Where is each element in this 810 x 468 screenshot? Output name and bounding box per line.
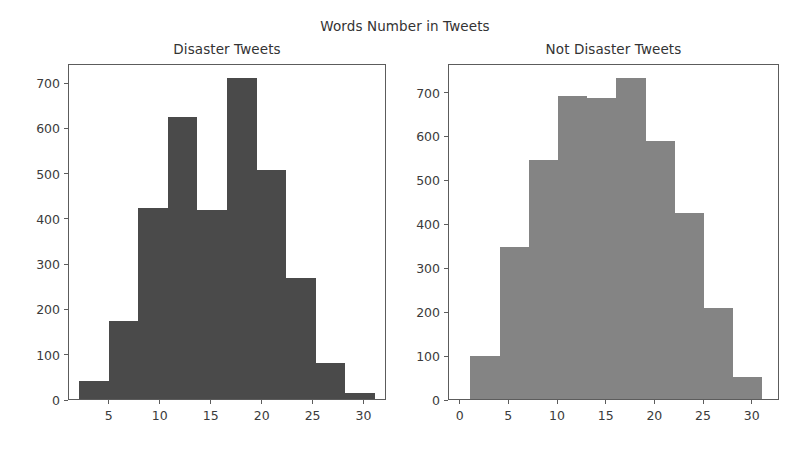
- y-tick-mark: [64, 83, 68, 84]
- histogram-bar: [138, 208, 168, 399]
- y-tick-mark: [444, 180, 448, 181]
- y-tick-label: 700: [16, 76, 60, 91]
- axes-not-disaster-tweets: [448, 64, 779, 400]
- y-tick-mark: [444, 136, 448, 137]
- y-tick-mark: [444, 400, 448, 401]
- x-tick-mark: [557, 400, 558, 404]
- x-tick-label: 25: [695, 408, 711, 423]
- y-tick-mark: [444, 312, 448, 313]
- y-tick-label: 500: [396, 173, 440, 188]
- y-tick-mark: [64, 218, 68, 219]
- x-tick-mark: [363, 400, 364, 404]
- y-tick-label: 600: [16, 121, 60, 136]
- y-tick-label: 200: [396, 305, 440, 320]
- subplot-title-disaster-tweets: Disaster Tweets: [68, 41, 386, 57]
- x-tick-mark: [312, 400, 313, 404]
- x-tick-mark: [703, 400, 704, 404]
- histogram-bar: [227, 78, 257, 400]
- y-tick-mark: [64, 309, 68, 310]
- y-tick-label: 300: [396, 261, 440, 276]
- x-tick-mark: [159, 400, 160, 404]
- histogram-bar: [168, 117, 198, 399]
- y-tick-mark: [444, 224, 448, 225]
- y-tick-label: 400: [16, 211, 60, 226]
- y-tick-label: 100: [396, 349, 440, 364]
- x-tick-label: 25: [305, 408, 321, 423]
- x-tick-mark: [261, 400, 262, 404]
- x-tick-label: 20: [254, 408, 270, 423]
- y-tick-mark: [64, 128, 68, 129]
- y-tick-label: 600: [396, 129, 440, 144]
- y-tick-label: 300: [16, 257, 60, 272]
- figure-canvas: Words Number in Tweets Disaster Tweets 0…: [0, 0, 810, 468]
- x-tick-label: 0: [456, 408, 464, 423]
- x-tick-label: 10: [549, 408, 565, 423]
- histogram-bar: [500, 247, 529, 399]
- y-tick-label: 700: [396, 85, 440, 100]
- histogram-bar: [704, 308, 733, 399]
- y-tick-label: 200: [16, 302, 60, 317]
- histogram-bar: [470, 356, 499, 399]
- x-tick-mark: [108, 400, 109, 404]
- histogram-bar: [345, 393, 375, 399]
- histogram-bar: [675, 213, 704, 399]
- y-tick-mark: [64, 354, 68, 355]
- x-tick-mark: [210, 400, 211, 404]
- x-tick-label: 30: [744, 408, 760, 423]
- histogram-bar: [529, 160, 558, 399]
- histogram-bar: [109, 321, 139, 399]
- y-tick-label: 0: [396, 393, 440, 408]
- histogram-bar: [286, 278, 316, 399]
- y-tick-mark: [64, 400, 68, 401]
- histogram-bar: [257, 170, 287, 399]
- figure-suptitle: Words Number in Tweets: [0, 18, 810, 34]
- y-tick-mark: [444, 92, 448, 93]
- x-tick-label: 15: [203, 408, 219, 423]
- histogram-bar: [733, 377, 762, 399]
- histogram-bars-not-disaster-tweets: [449, 65, 778, 399]
- y-tick-label: 500: [16, 166, 60, 181]
- x-tick-label: 15: [598, 408, 614, 423]
- x-tick-label: 20: [646, 408, 662, 423]
- x-tick-label: 5: [105, 408, 113, 423]
- x-tick-label: 5: [504, 408, 512, 423]
- y-tick-label: 0: [16, 393, 60, 408]
- y-tick-mark: [444, 356, 448, 357]
- x-tick-mark: [605, 400, 606, 404]
- histogram-bar: [316, 363, 346, 399]
- histogram-bar: [646, 141, 675, 399]
- histogram-bar: [79, 381, 109, 399]
- x-tick-mark: [459, 400, 460, 404]
- axes-disaster-tweets: [68, 64, 386, 400]
- x-tick-mark: [654, 400, 655, 404]
- histogram-bars-disaster-tweets: [69, 65, 385, 399]
- x-tick-label: 10: [152, 408, 168, 423]
- y-tick-label: 100: [16, 347, 60, 362]
- x-tick-mark: [508, 400, 509, 404]
- subplot-title-not-disaster-tweets: Not Disaster Tweets: [448, 41, 779, 57]
- histogram-bar: [558, 96, 587, 399]
- x-tick-mark: [751, 400, 752, 404]
- histogram-bar: [616, 78, 645, 399]
- y-tick-mark: [444, 268, 448, 269]
- y-tick-label: 400: [396, 217, 440, 232]
- y-tick-mark: [64, 264, 68, 265]
- histogram-bar: [197, 210, 227, 399]
- x-tick-label: 30: [356, 408, 372, 423]
- y-tick-mark: [64, 173, 68, 174]
- histogram-bar: [587, 98, 616, 399]
